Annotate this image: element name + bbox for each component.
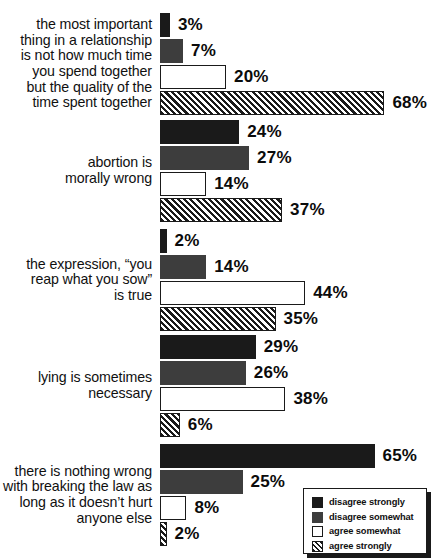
bar-disagree-somewhat bbox=[160, 146, 249, 170]
bar-agree-somewhat bbox=[160, 281, 305, 305]
bar-disagree-strongly bbox=[160, 444, 375, 468]
bar-value-label: 44% bbox=[313, 281, 348, 305]
bar-row: 26% bbox=[160, 360, 437, 386]
bar-value-label: 7% bbox=[191, 39, 216, 63]
bar-group-label-line: with breaking the law as bbox=[0, 479, 152, 495]
bar-value-label: 14% bbox=[214, 172, 249, 196]
bar-row: 68% bbox=[160, 90, 437, 116]
bar-group: the expression, “youreap what you sow”is… bbox=[0, 228, 437, 332]
legend-item[interactable]: disagree somewhat bbox=[312, 511, 420, 524]
legend-swatch-icon bbox=[312, 497, 323, 508]
bar-disagree-strongly bbox=[160, 13, 170, 37]
legend-item[interactable]: agree strongly bbox=[312, 540, 420, 553]
bar-agree-somewhat bbox=[160, 496, 186, 520]
bar-row: 29% bbox=[160, 334, 437, 360]
bar-group-label: the most importantthing in a relationshi… bbox=[0, 17, 152, 111]
bar-agree-strongly bbox=[160, 522, 167, 546]
bar-agree-somewhat bbox=[160, 65, 226, 89]
bar-row: 27% bbox=[160, 145, 437, 171]
bar-value-label: 20% bbox=[234, 65, 269, 89]
bar-row: 2% bbox=[160, 228, 437, 254]
bar-row: 24% bbox=[160, 119, 437, 145]
bar-row: 20% bbox=[160, 64, 437, 90]
bar-group-label: there is nothing wrongwith breaking the … bbox=[0, 464, 152, 526]
bar-disagree-strongly bbox=[160, 120, 239, 144]
bar-disagree-strongly bbox=[160, 229, 167, 253]
bar-agree-somewhat bbox=[160, 172, 206, 196]
bar-agree-somewhat bbox=[160, 387, 285, 411]
bar-value-label: 25% bbox=[251, 470, 286, 494]
bar-group-label-line: you spend together bbox=[0, 64, 152, 80]
bar-row: 14% bbox=[160, 254, 437, 280]
bar-group-label-line: is true bbox=[0, 288, 152, 304]
bar-row: 14% bbox=[160, 171, 437, 197]
bar-row: 37% bbox=[160, 197, 437, 223]
legend-item-label: agree somewhat bbox=[329, 526, 400, 537]
bar-agree-strongly bbox=[160, 198, 282, 222]
bar-value-label: 14% bbox=[214, 255, 249, 279]
legend-swatch-icon bbox=[312, 541, 323, 552]
bar-value-label: 26% bbox=[254, 361, 289, 385]
bar-chart: the most importantthing in a relationshi… bbox=[0, 0, 437, 560]
bar-disagree-somewhat bbox=[160, 39, 183, 63]
bar-group-label-line: morally wrong bbox=[0, 171, 152, 187]
bar-value-label: 65% bbox=[383, 444, 418, 468]
bar-row: 6% bbox=[160, 412, 437, 438]
bar-group-label: lying is sometimesnecessary bbox=[0, 370, 152, 401]
bar-group: abortion ismorally wrong24%27%14%37% bbox=[0, 119, 437, 223]
bar-group-label-line: but the quality of the bbox=[0, 80, 152, 96]
bar-value-label: 68% bbox=[392, 91, 427, 115]
bar-value-label: 37% bbox=[290, 198, 325, 222]
bar-agree-strongly bbox=[160, 413, 180, 437]
legend-swatch-icon bbox=[312, 512, 323, 523]
bar-value-label: 29% bbox=[264, 335, 299, 359]
bar-disagree-somewhat bbox=[160, 470, 243, 494]
bar-group-label: the expression, “youreap what you sow”is… bbox=[0, 257, 152, 304]
bar-disagree-somewhat bbox=[160, 255, 206, 279]
bar-value-label: 3% bbox=[178, 13, 203, 37]
bar-disagree-strongly bbox=[160, 335, 256, 359]
legend-swatch-icon bbox=[312, 526, 323, 537]
legend-item[interactable]: agree somewhat bbox=[312, 525, 420, 538]
bar-group-bars: 2%14%44%35% bbox=[160, 228, 437, 332]
bar-group-bars: 3%7%20%68% bbox=[160, 12, 437, 116]
legend-item[interactable]: disagree strongly bbox=[312, 496, 420, 509]
bar-group: the most importantthing in a relationshi… bbox=[0, 12, 437, 116]
legend-item-label: disagree strongly bbox=[329, 497, 405, 508]
bar-value-label: 24% bbox=[247, 120, 282, 144]
bar-group-label-line: time spent together bbox=[0, 95, 152, 111]
bar-group-bars: 24%27%14%37% bbox=[160, 119, 437, 223]
bar-row: 44% bbox=[160, 280, 437, 306]
bar-value-label: 38% bbox=[293, 387, 328, 411]
bar-group-label: abortion ismorally wrong bbox=[0, 155, 152, 186]
bar-group-label-line: anyone else bbox=[0, 511, 152, 527]
bar-row: 38% bbox=[160, 386, 437, 412]
bar-value-label: 8% bbox=[194, 496, 219, 520]
bar-value-label: 35% bbox=[284, 307, 319, 331]
bar-group-label-line: abortion is bbox=[0, 155, 152, 171]
bar-group-label-line: thing in a relationship bbox=[0, 33, 152, 49]
bar-group-label-line: there is nothing wrong bbox=[0, 464, 152, 480]
bar-value-label: 2% bbox=[175, 522, 200, 546]
bar-group-label-line: reap what you sow” bbox=[0, 272, 152, 288]
bar-agree-strongly bbox=[160, 307, 276, 331]
bar-row: 3% bbox=[160, 12, 437, 38]
bar-row: 65% bbox=[160, 443, 437, 469]
bar-group: lying is sometimesnecessary29%26%38%6% bbox=[0, 334, 437, 438]
legend-item-label: disagree somewhat bbox=[329, 512, 414, 523]
bar-group-label-line: the most important bbox=[0, 17, 152, 33]
bar-value-label: 27% bbox=[257, 146, 292, 170]
chart-legend: disagree stronglydisagree somewhatagree … bbox=[303, 488, 427, 554]
legend-item-label: agree strongly bbox=[329, 541, 392, 552]
bar-group-label-line: the expression, “you bbox=[0, 257, 152, 273]
bar-value-label: 2% bbox=[175, 229, 200, 253]
bar-group-label-line: long as it doesn’t hurt bbox=[0, 495, 152, 511]
bar-row: 35% bbox=[160, 306, 437, 332]
bar-value-label: 6% bbox=[188, 413, 213, 437]
bar-group-label-line: necessary bbox=[0, 386, 152, 402]
bar-group-label-line: is not how much time bbox=[0, 48, 152, 64]
bar-disagree-somewhat bbox=[160, 361, 246, 385]
bar-row: 7% bbox=[160, 38, 437, 64]
bar-group-label-line: lying is sometimes bbox=[0, 370, 152, 386]
bar-agree-strongly bbox=[160, 91, 384, 115]
